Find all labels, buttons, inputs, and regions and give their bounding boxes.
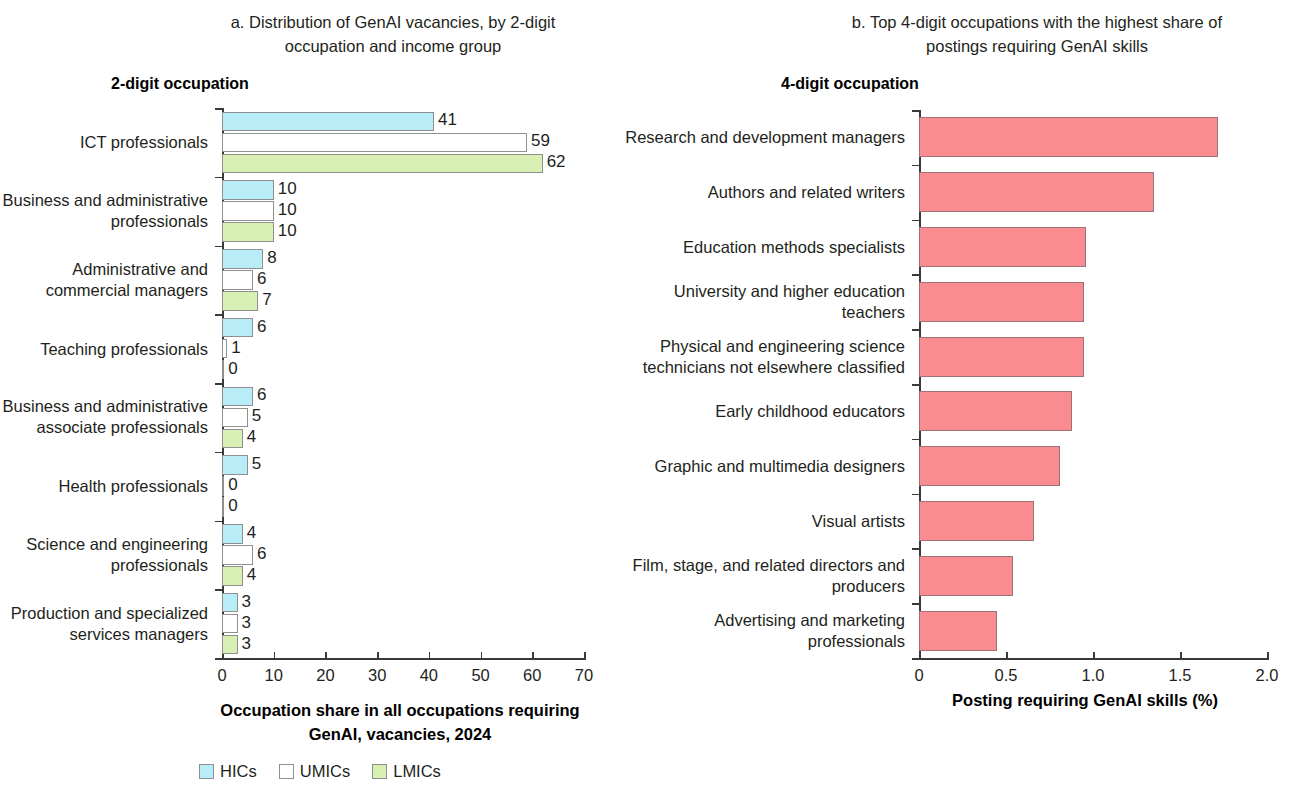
panel-b-x-tick-label: 1.5 bbox=[1169, 666, 1192, 685]
panel-b-x-tick-label: 0 bbox=[914, 666, 923, 685]
panel-b-bar bbox=[919, 556, 1013, 596]
panel-b-category-label: Education methods specialists bbox=[615, 237, 905, 258]
panel-a-bar-value: 62 bbox=[547, 152, 566, 172]
panel-b-x-tick-label: 2.0 bbox=[1256, 666, 1279, 685]
panel-a-bar bbox=[222, 201, 274, 221]
panel-b-y-tick bbox=[912, 494, 919, 496]
panel-a-y-tick bbox=[215, 589, 222, 591]
panel-b-bar bbox=[919, 337, 1084, 377]
panel-a-bar bbox=[222, 614, 238, 634]
panel-a-legend: HICsUMICsLMICs bbox=[0, 762, 640, 781]
panel-a-y-tick bbox=[215, 452, 222, 454]
panel-a-category-label: ICT professionals bbox=[0, 132, 208, 153]
legend-item-umics: UMICs bbox=[279, 762, 350, 781]
panel-a-y-tick bbox=[215, 108, 222, 110]
legend-swatch-lmics bbox=[372, 764, 387, 779]
panel-a-bar-value: 6 bbox=[257, 269, 266, 289]
panel-a-plot-area: 010203040506070ICT professionals415962Bu… bbox=[222, 108, 584, 658]
panel-a-y-tick bbox=[215, 246, 222, 248]
panel-b-bar bbox=[919, 227, 1086, 267]
panel-a-x-tick bbox=[274, 652, 276, 660]
panel-a-bar bbox=[222, 635, 238, 655]
panel-a-bar-value: 6 bbox=[257, 317, 266, 337]
panel-a-x-tick bbox=[532, 652, 534, 660]
panel-a-bar-value: 41 bbox=[438, 110, 457, 130]
panel-a-bar bbox=[222, 593, 238, 613]
panel-a-y-tick bbox=[215, 177, 222, 179]
panel-a-x-tick-label: 50 bbox=[471, 666, 489, 685]
panel-a-category-label: Business and administrative professional… bbox=[0, 190, 208, 232]
panel-b-y-tick bbox=[912, 165, 919, 167]
panel-a-bar bbox=[222, 339, 227, 359]
panel-a-axis-header: 2-digit occupation bbox=[40, 75, 320, 93]
panel-a-category-label: Teaching professionals bbox=[0, 338, 208, 359]
panel-a-bar bbox=[222, 455, 248, 475]
panel-b-category-label: Early childhood educators bbox=[615, 401, 905, 422]
panel-a-x-tick-label: 70 bbox=[575, 666, 593, 685]
panel-a-bar-value: 4 bbox=[247, 565, 256, 585]
panel-b-category-label: Advertising and marketing professionals bbox=[615, 610, 905, 652]
panel-b-category-label: Film, stage, and related directors and p… bbox=[615, 555, 905, 597]
panel-a-bar bbox=[222, 318, 253, 338]
panel-a-category-label: Health professionals bbox=[0, 476, 208, 497]
legend-item-lmics: LMICs bbox=[372, 762, 441, 781]
panel-b-bar bbox=[919, 117, 1218, 157]
panel-a-x-tick-label: 0 bbox=[217, 666, 226, 685]
panel-a-category-label: Business and administrative associate pr… bbox=[0, 396, 208, 438]
panel-a-bar-value: 59 bbox=[531, 131, 550, 151]
panel-a-title: a. Distribution of GenAI vacancies, by 2… bbox=[198, 10, 588, 58]
panel-a-bar bbox=[222, 545, 253, 565]
panel-a-bar-value: 5 bbox=[252, 454, 261, 474]
panel-a-x-tick-label: 20 bbox=[316, 666, 334, 685]
panel-a-bar bbox=[222, 222, 274, 242]
panel-a-bar-value: 0 bbox=[228, 359, 237, 379]
panel-b-y-tick bbox=[912, 329, 919, 331]
panel-a-x-tick-label: 10 bbox=[265, 666, 283, 685]
panel-b-title: b. Top 4-digit occupations with the high… bbox=[822, 10, 1252, 58]
panel-b-xaxis-title: Posting requiring GenAI skills (%) bbox=[885, 688, 1285, 712]
legend-label: UMICs bbox=[300, 762, 350, 781]
panel-a-bar-value: 4 bbox=[247, 523, 256, 543]
panel-a-x-tick-label: 40 bbox=[420, 666, 438, 685]
panel-b-x-tick bbox=[1093, 652, 1095, 660]
panel-a-category-label: Science and engineering professionals bbox=[0, 534, 208, 576]
panel-a-bar-value: 10 bbox=[278, 179, 297, 199]
panel-a-x-tick bbox=[429, 652, 431, 660]
panel-a-bar-value: 6 bbox=[257, 385, 266, 405]
panel-a-bar bbox=[222, 291, 258, 311]
panel-a-x-tick-label: 30 bbox=[368, 666, 386, 685]
panel-a-y-tick bbox=[215, 658, 222, 660]
panel-a-bar-value: 3 bbox=[242, 592, 251, 612]
legend-item-hics: HICs bbox=[199, 762, 257, 781]
panel-b-y-tick bbox=[912, 548, 919, 550]
panel-a-bar bbox=[222, 180, 274, 200]
panel-b-y-tick bbox=[912, 274, 919, 276]
panel-a-bar bbox=[222, 387, 253, 407]
panel-a-bar bbox=[222, 154, 543, 174]
panel-b-bar bbox=[919, 282, 1084, 322]
panel-b-bar bbox=[919, 501, 1034, 541]
panel-b-bar bbox=[919, 391, 1072, 431]
panel-a-y-tick bbox=[215, 383, 222, 385]
panel-b-x-tick bbox=[1180, 652, 1182, 660]
panel-a-bar bbox=[222, 429, 243, 449]
panel-a-bar-value: 3 bbox=[242, 634, 251, 654]
panel-b-category-label: Visual artists bbox=[615, 511, 905, 532]
panel-a-category-label: Production and specialized services mana… bbox=[0, 603, 208, 645]
panel-a-bar-value: 4 bbox=[247, 427, 256, 447]
panel-b-y-tick bbox=[912, 658, 919, 660]
panel-a-bar bbox=[222, 360, 224, 380]
panel-a-bar bbox=[222, 476, 224, 496]
panel-a-bar bbox=[222, 566, 243, 586]
panel-a-bar-value: 10 bbox=[278, 221, 297, 241]
panel-a-bar-value: 3 bbox=[242, 613, 251, 633]
panel-b-y-tick bbox=[912, 220, 919, 222]
panel-a-bar bbox=[222, 249, 263, 269]
panel-a-x-tick bbox=[325, 652, 327, 660]
panel-a-bar bbox=[222, 497, 224, 517]
panel-a-bar bbox=[222, 270, 253, 290]
panel-a-chart: a. Distribution of GenAI vacancies, by 2… bbox=[0, 0, 640, 787]
panel-a-x-tick bbox=[377, 652, 379, 660]
panel-b-x-tick bbox=[1006, 652, 1008, 660]
panel-a-x-tick bbox=[481, 652, 483, 660]
